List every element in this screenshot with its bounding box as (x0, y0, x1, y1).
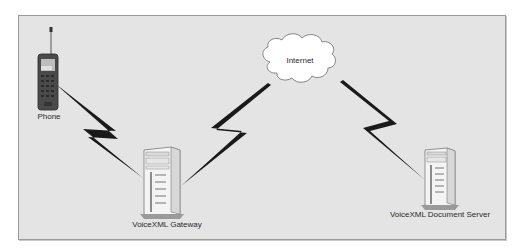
gateway-label: VoiceXML Gateway (132, 220, 202, 229)
lightning-bolt-internet-docserver-icon (340, 80, 425, 180)
lightning-bolt-gateway-internet-icon (181, 83, 271, 186)
lightning-bolt-phone-gateway-icon (57, 85, 143, 178)
document-server-icon (421, 148, 459, 210)
mobile-phone-icon (38, 27, 58, 110)
doc-server-label: VoiceXML Document Server (390, 210, 490, 219)
phone-label: Phone (37, 112, 60, 121)
gateway-server-icon (140, 147, 184, 219)
internet-label: Internet (286, 56, 313, 65)
